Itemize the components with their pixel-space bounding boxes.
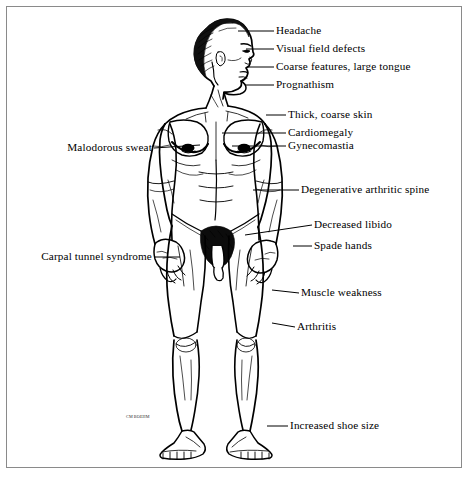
acromegaly-figure-root: HeadacheVisual field defectsCoarse featu… <box>0 0 471 477</box>
annotation-label-degenerative-spine: Degenerative arthritic spine <box>301 183 429 195</box>
annotation-label-visual-field-defects: Visual field defects <box>276 42 365 54</box>
leader-line-muscle-weakness <box>272 290 299 293</box>
annotation-label-malodorous-sweat: Malodorous sweat <box>67 141 152 153</box>
annotation-label-prognathism: Prognathism <box>276 78 334 90</box>
leader-line-arthritis <box>272 323 295 327</box>
annotation-label-increased-shoe-size: Increased shoe size <box>290 419 379 431</box>
annotation-label-headache: Headache <box>276 24 321 36</box>
annotation-label-arthritis: Arthritis <box>297 320 336 332</box>
annotation-label-coarse-features: Coarse features, large tongue <box>276 60 411 72</box>
annotation-label-cardiomegaly: Cardiomegaly <box>288 126 353 138</box>
annotation-label-gynecomastia: Gynecomastia <box>288 139 354 151</box>
annotation-label-muscle-weakness: Muscle weakness <box>301 286 382 298</box>
annotation-label-carpal-tunnel-syndrome: Carpal tunnel syndrome <box>41 250 152 262</box>
annotation-label-spade-hands: Spade hands <box>314 239 372 251</box>
annotation-label-thick-coarse-skin: Thick, coarse skin <box>288 108 372 120</box>
artist-signature: CM BOEHM <box>126 414 150 419</box>
annotation-label-decreased-libido: Decreased libido <box>314 218 392 230</box>
annotation-leader-lines <box>154 31 312 426</box>
